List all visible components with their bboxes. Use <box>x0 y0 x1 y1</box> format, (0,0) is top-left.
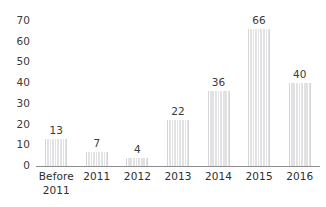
x-tick-group: 2014 <box>198 169 239 183</box>
bar <box>45 139 67 166</box>
bar <box>248 29 270 166</box>
x-tick-group: 2012 <box>117 169 158 183</box>
bar-group: 66 <box>239 10 280 166</box>
bar-value-label: 36 <box>212 77 226 88</box>
x-tick-label: 2015 <box>239 169 280 183</box>
x-tick-label: 2011 <box>77 169 118 183</box>
bar <box>167 120 189 166</box>
x-axis: Before2011201120122013201420152016 <box>36 169 320 207</box>
y-tick-label: 20 <box>16 119 30 130</box>
bar-group: 22 <box>158 10 199 166</box>
y-tick-label: 40 <box>16 77 30 88</box>
bar <box>289 83 311 166</box>
y-tick-label: 60 <box>16 36 30 47</box>
bar <box>86 152 108 167</box>
y-tick-label: 0 <box>23 160 30 171</box>
bar-group: 36 <box>198 10 239 166</box>
bar-group: 7 <box>77 10 118 166</box>
bar-value-label: 7 <box>93 138 100 149</box>
x-tick-label: 2011 <box>36 183 77 197</box>
x-tick-group: 2013 <box>158 169 199 183</box>
x-tick-label: 2016 <box>279 169 320 183</box>
x-tick-group: 2015 <box>239 169 280 183</box>
y-tick-label: 30 <box>16 98 30 109</box>
bar-value-label: 22 <box>171 106 185 117</box>
bar-value-label: 66 <box>252 15 266 26</box>
bar-value-label: 4 <box>134 144 141 155</box>
bar-value-label: 40 <box>293 69 307 80</box>
x-tick-group: 2016 <box>279 169 320 183</box>
y-axis: 010203040506070 <box>0 0 34 207</box>
x-tick-label: 2014 <box>198 169 239 183</box>
plot-area: 137422366640 <box>36 10 320 166</box>
bar-value-label: 13 <box>50 125 64 136</box>
x-tick-label: Before <box>36 169 77 183</box>
bar-group: 13 <box>36 10 77 166</box>
bar-group: 40 <box>279 10 320 166</box>
bar-chart: 010203040506070 137422366640 Before20112… <box>0 0 326 207</box>
x-axis-line <box>36 166 320 168</box>
x-tick-group: Before2011 <box>36 169 77 197</box>
bar-group: 4 <box>117 10 158 166</box>
bar <box>208 91 230 166</box>
x-tick-group: 2011 <box>77 169 118 183</box>
x-tick-label: 2012 <box>117 169 158 183</box>
y-tick-label: 50 <box>16 56 30 67</box>
y-tick-label: 70 <box>16 15 30 26</box>
y-tick-label: 10 <box>16 139 30 150</box>
x-tick-label: 2013 <box>158 169 199 183</box>
